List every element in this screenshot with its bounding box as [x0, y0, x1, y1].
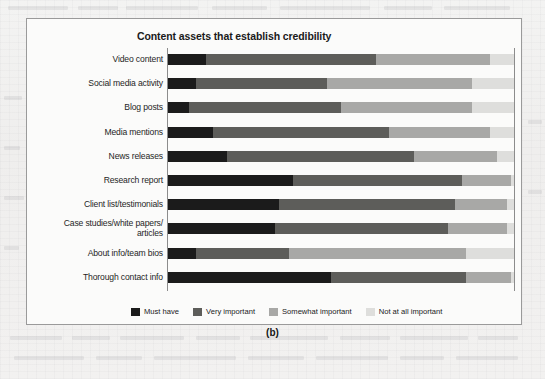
- bar-segment: [466, 272, 511, 283]
- paper-smudge: [248, 356, 304, 360]
- category-label: Thorough contact info: [33, 272, 163, 282]
- category-label: Research report: [33, 175, 163, 185]
- bar-segment: [293, 175, 463, 186]
- bar-segment: [490, 127, 514, 138]
- bar-segment: [497, 151, 514, 162]
- paper-smudge: [384, 6, 432, 10]
- bar-segment: [376, 54, 490, 65]
- paper-smudge: [456, 356, 518, 360]
- paper-smudge: [528, 120, 542, 124]
- bar-segment: [511, 272, 514, 283]
- category-label: Social media activity: [33, 78, 163, 88]
- bar-segment: [341, 102, 472, 113]
- chart-frame: Content assets that establish credibilit…: [26, 18, 522, 325]
- chart-legend: Must haveVery importantSomewhat importan…: [131, 307, 442, 316]
- bar-segment: [472, 102, 514, 113]
- paper-smudge: [212, 6, 267, 10]
- bar-segment: [455, 199, 507, 210]
- bar-segment: [168, 272, 331, 283]
- bar-segment: [196, 248, 289, 259]
- bar-row: [168, 54, 514, 65]
- bar-segment: [189, 102, 341, 113]
- legend-swatch: [366, 308, 375, 316]
- legend-item: Somewhat important: [269, 307, 352, 316]
- bar-row: [168, 199, 514, 210]
- bar-row: [168, 223, 514, 234]
- bar-row: [168, 127, 514, 138]
- bar-segment: [327, 78, 472, 89]
- chart-title: Content assets that establish credibilit…: [137, 30, 331, 42]
- bar-segment: [196, 78, 327, 89]
- legend-item: Not at all important: [366, 307, 443, 316]
- bar-segment: [168, 199, 279, 210]
- paper-smudge: [400, 356, 444, 360]
- legend-swatch: [193, 308, 202, 316]
- plot-area: [167, 48, 515, 291]
- paper-smudge: [14, 356, 84, 360]
- category-label: About info/team bios: [33, 248, 163, 258]
- scanned-page: Content assets that establish credibilit…: [0, 0, 545, 379]
- paper-smudge: [8, 6, 68, 10]
- bar-segment: [227, 151, 414, 162]
- paper-smudge: [78, 6, 118, 10]
- bar-segment: [168, 78, 196, 89]
- paper-smudge: [444, 6, 510, 10]
- category-label: Client list/testimonials: [33, 199, 163, 209]
- bar-segment: [168, 127, 213, 138]
- bar-segment: [389, 127, 489, 138]
- bar-segment: [168, 151, 227, 162]
- paper-smudge: [528, 190, 542, 194]
- bar-segment: [275, 223, 448, 234]
- legend-label: Very important: [206, 307, 255, 316]
- category-label: Case studies/white papers/ articles: [33, 218, 163, 238]
- figure-caption: (b): [0, 327, 545, 338]
- paper-smudge: [316, 356, 388, 360]
- bar-row: [168, 175, 514, 186]
- legend-label: Somewhat important: [282, 307, 352, 316]
- bar-segment: [279, 199, 455, 210]
- category-label: News releases: [33, 151, 163, 161]
- bar-segment: [507, 223, 514, 234]
- bar-segment: [466, 248, 514, 259]
- bar-segment: [168, 175, 293, 186]
- bar-segment: [462, 175, 510, 186]
- legend-label: Not at all important: [379, 307, 443, 316]
- legend-swatch: [269, 308, 278, 316]
- paper-smudge: [126, 6, 198, 10]
- bar-segment: [331, 272, 466, 283]
- bar-segment: [414, 151, 497, 162]
- paper-smudge: [96, 356, 142, 360]
- bar-row: [168, 248, 514, 259]
- bar-segment: [507, 199, 514, 210]
- bar-row: [168, 102, 514, 113]
- paper-smudge: [280, 6, 370, 10]
- bar-segment: [448, 223, 507, 234]
- paper-smudge: [4, 196, 24, 200]
- paper-smudge: [4, 96, 22, 100]
- bar-segment: [289, 248, 465, 259]
- bar-segment: [206, 54, 376, 65]
- legend-swatch: [131, 308, 140, 316]
- bar-row: [168, 272, 514, 283]
- legend-item: Very important: [193, 307, 255, 316]
- bar-row: [168, 151, 514, 162]
- paper-smudge: [154, 356, 236, 360]
- bar-segment: [168, 102, 189, 113]
- legend-label: Must have: [144, 307, 179, 316]
- category-label: Blog posts: [33, 102, 163, 112]
- bar-segment: [490, 54, 514, 65]
- bar-segment: [168, 248, 196, 259]
- bar-segment: [168, 54, 206, 65]
- paper-smudge: [4, 246, 19, 250]
- category-label: Video content: [33, 54, 163, 64]
- category-label: Media mentions: [33, 127, 163, 137]
- paper-smudge: [4, 146, 20, 150]
- bar-segment: [213, 127, 389, 138]
- bar-row: [168, 78, 514, 89]
- bar-segment: [472, 78, 514, 89]
- bar-segment: [511, 175, 514, 186]
- bar-segment: [168, 223, 275, 234]
- legend-item: Must have: [131, 307, 179, 316]
